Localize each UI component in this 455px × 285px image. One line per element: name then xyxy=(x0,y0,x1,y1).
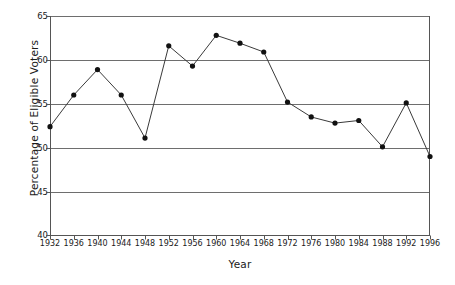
data-point-markers xyxy=(47,33,432,159)
data-point-1940 xyxy=(95,67,100,72)
data-point-1984 xyxy=(356,118,361,123)
data-point-1996 xyxy=(427,154,432,159)
data-point-1932 xyxy=(47,124,52,129)
data-point-1980 xyxy=(332,121,337,126)
data-point-1960 xyxy=(214,33,219,38)
line-chart-figure: Percentage of Eligible Voters 65 60 55 5… xyxy=(0,0,455,285)
data-point-1948 xyxy=(142,135,147,140)
data-point-1988 xyxy=(380,144,385,149)
data-point-1956 xyxy=(190,63,195,68)
data-point-1972 xyxy=(285,99,290,104)
data-point-1944 xyxy=(119,92,124,97)
data-point-1976 xyxy=(309,114,314,119)
data-point-1936 xyxy=(71,92,76,97)
data-point-1968 xyxy=(261,49,266,54)
chart-page: Percentage of Eligible Voters 65 60 55 5… xyxy=(0,0,455,285)
axes xyxy=(50,16,430,236)
x-tick-label-1996: 1996 xyxy=(410,240,450,248)
data-point-1952 xyxy=(166,43,171,48)
data-point-1992 xyxy=(404,100,409,105)
x-axis-title: Year xyxy=(50,258,430,270)
data-series-line xyxy=(50,35,430,156)
data-point-1964 xyxy=(237,41,242,46)
